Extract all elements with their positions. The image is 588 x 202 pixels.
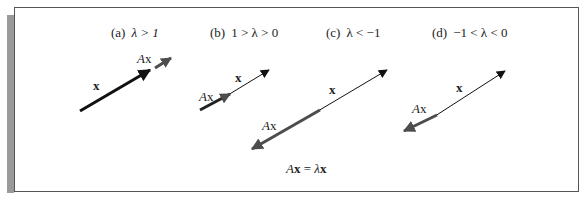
eigenvector-figure: (a)λ > 1 x Ax (b)1 > λ > 0 x Ax (c)λ < −… [0, 0, 588, 202]
panel-b: (b)1 > λ > 0 x Ax [198, 25, 278, 110]
panel-d: (d)−1 < λ < 0 x Ax [404, 25, 507, 131]
panel-b-Ax-label: Ax [198, 89, 214, 104]
panel-d-Ax-arrow [404, 115, 437, 131]
panel-a-Ax-arrow [155, 58, 171, 68]
panel-a-Ax-label: Ax [136, 51, 152, 66]
figure-canvas: (a)λ > 1 x Ax (b)1 > λ > 0 x Ax (c)λ < −… [0, 0, 588, 202]
eigen-equation: Ax = λx [285, 161, 327, 176]
panel-a-x-label: x [93, 78, 100, 93]
panel-a-x-arrow [80, 70, 150, 111]
panel-c-Ax-label: Ax [261, 118, 277, 133]
panel-a: (a)λ > 1 x Ax [80, 25, 171, 111]
panel-d-x-arrow [432, 71, 505, 118]
panel-b-title: (b)1 > λ > 0 [210, 25, 278, 40]
panel-b-x-label: x [235, 70, 242, 85]
panel-c-x-label: x [329, 82, 336, 97]
panel-d-x-label: x [456, 80, 463, 95]
panel-c-title: (c)λ < −1 [326, 25, 380, 40]
panel-d-title: (d)−1 < λ < 0 [432, 25, 507, 40]
panel-a-title: (a)λ > 1 [111, 25, 159, 40]
panel-d-Ax-label: Ax [411, 101, 427, 116]
panel-c: (c)λ < −1 x Ax [252, 25, 387, 149]
